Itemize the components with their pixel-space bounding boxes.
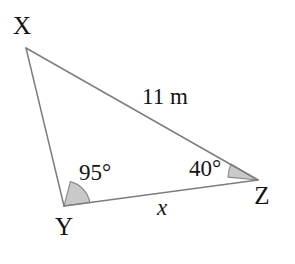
angle-label-y: 95° <box>79 160 111 185</box>
angle-label-z: 40° <box>189 156 221 181</box>
side-xz-line <box>26 48 258 180</box>
side-xy-line <box>26 48 64 206</box>
vertex-label-y: Y <box>55 213 73 240</box>
vertex-label-x: X <box>13 12 31 39</box>
side-label-xz: 11 m <box>142 84 188 109</box>
side-label-yz: x <box>156 195 168 220</box>
triangle-figure-svg: X Y Z 95° 40° 11 m x <box>0 0 295 264</box>
geometry-diagram: X Y Z 95° 40° 11 m x <box>0 0 295 264</box>
vertex-label-z: Z <box>254 182 269 209</box>
